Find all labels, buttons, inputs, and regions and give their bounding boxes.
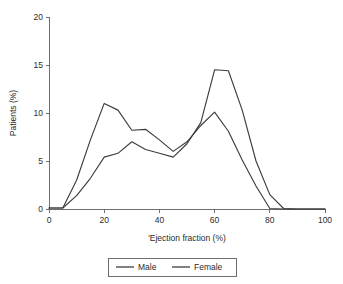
x-tick-label-80: 80 xyxy=(265,215,275,225)
x-tick-label-100: 100 xyxy=(318,215,332,225)
chart-legend: MaleFemale xyxy=(108,258,236,276)
y-axis-title: Patients (%) xyxy=(8,90,18,136)
legend-label-female: Female xyxy=(194,262,223,272)
x-tick-label-0: 0 xyxy=(47,215,52,225)
series-line-male xyxy=(49,103,325,209)
y-tick-label-15: 15 xyxy=(34,60,44,70)
x-tick-label-60: 60 xyxy=(210,215,220,225)
legend-label-male: Male xyxy=(138,262,157,272)
x-tick-label-40: 40 xyxy=(155,215,165,225)
y-tick-label-5: 5 xyxy=(38,156,43,166)
data-series xyxy=(49,70,325,209)
y-tick-label-0: 0 xyxy=(38,204,43,214)
line-chart: 05101520020406080100 'Ejection fraction … xyxy=(0,0,343,284)
figure-container: 05101520020406080100 'Ejection fraction … xyxy=(0,0,343,284)
y-tick-label-20: 20 xyxy=(34,12,44,22)
x-axis-title: 'Ejection fraction (%) xyxy=(148,233,226,243)
x-tick-label-20: 20 xyxy=(99,215,109,225)
y-tick-label-10: 10 xyxy=(34,108,44,118)
